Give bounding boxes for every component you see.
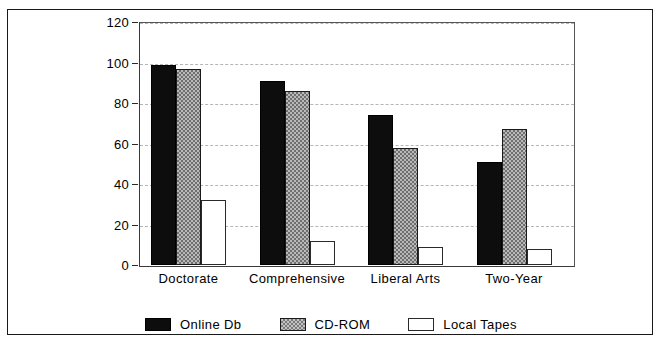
bar-group <box>260 22 335 265</box>
y-tick-label: 60 <box>114 136 129 151</box>
bar <box>176 69 201 265</box>
bar <box>260 81 285 265</box>
x-tick-label: Two-Year <box>485 271 543 286</box>
bar <box>527 249 552 265</box>
legend-entry[interactable]: Online Db <box>145 317 241 332</box>
legend-label: CD-ROM <box>315 317 371 332</box>
bar <box>151 65 176 265</box>
y-tick-label: 40 <box>114 177 129 192</box>
bar <box>477 162 502 265</box>
y-tick-mark <box>132 22 138 23</box>
bar-group <box>151 22 226 265</box>
y-tick-label: 100 <box>106 55 129 70</box>
bars-layer <box>139 22 573 265</box>
y-tick-mark <box>132 265 138 266</box>
legend-entry[interactable]: Local Tapes <box>408 317 517 332</box>
x-tick-label: Doctorate <box>159 271 219 286</box>
legend-swatch-icon <box>280 318 306 331</box>
plot-wrapper: 020406080100120 DoctorateComprehensiveLi… <box>0 0 662 343</box>
bar <box>285 91 310 265</box>
bar <box>393 148 418 265</box>
bar <box>368 115 393 265</box>
y-tick-mark <box>132 225 138 226</box>
bar <box>502 129 527 265</box>
legend-entry[interactable]: CD-ROM <box>280 317 371 332</box>
y-tick-mark <box>132 184 138 185</box>
y-tick-label: 20 <box>114 217 129 232</box>
chart-figure: 020406080100120 DoctorateComprehensiveLi… <box>0 0 662 343</box>
bar <box>418 247 443 265</box>
y-axis: 020406080100120 <box>0 22 139 265</box>
bar-group <box>477 22 552 265</box>
y-tick-label: 0 <box>121 258 129 273</box>
x-tick-label: Comprehensive <box>249 271 345 286</box>
y-tick-mark <box>132 63 138 64</box>
legend-swatch-icon <box>408 318 434 331</box>
y-tick-label: 80 <box>114 96 129 111</box>
legend-label: Online Db <box>180 317 241 332</box>
y-tick-mark <box>132 103 138 104</box>
x-axis-labels: DoctorateComprehensiveLiberal ArtsTwo-Ye… <box>139 271 573 291</box>
y-tick-mark <box>132 144 138 145</box>
bar-group <box>368 22 443 265</box>
y-tick-label: 120 <box>106 15 129 30</box>
legend-swatch-icon <box>145 318 171 331</box>
bar <box>201 200 226 265</box>
chart-legend: Online DbCD-ROMLocal Tapes <box>0 313 662 335</box>
bar <box>310 241 335 265</box>
x-tick-label: Liberal Arts <box>371 271 441 286</box>
legend-label: Local Tapes <box>443 317 517 332</box>
